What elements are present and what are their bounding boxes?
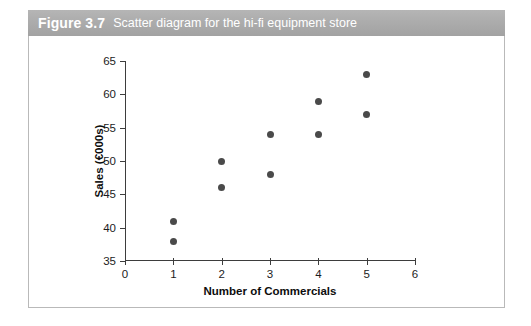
y-axis-title: Sales (€000s) [93, 125, 105, 198]
x-tick-label: 2 [218, 268, 224, 280]
x-tick-mark [415, 258, 416, 265]
data-point [363, 71, 370, 78]
x-tick-mark [173, 258, 174, 265]
x-tick-label: 4 [315, 268, 321, 280]
y-tick-mark [120, 128, 126, 129]
y-tick-label: 60 [103, 88, 116, 100]
y-tick-label: 35 [103, 255, 116, 267]
figure-caption-bar: Figure 3.7 Scatter diagram for the hi-fi… [28, 10, 505, 36]
plot-container: 35404550556065 0123456 Number of Commerc… [28, 36, 505, 308]
x-tick-label: 0 [122, 268, 128, 280]
y-tick-mark [120, 94, 126, 95]
data-point [170, 218, 177, 225]
y-tick-mark [120, 61, 126, 62]
y-tick-mark [120, 228, 126, 229]
x-tick-label: 3 [267, 268, 273, 280]
x-tick-label: 5 [363, 268, 369, 280]
x-tick-label: 1 [170, 268, 176, 280]
data-point [218, 184, 225, 191]
data-point [170, 238, 177, 245]
x-tick-mark [318, 258, 319, 265]
y-tick-mark [120, 194, 126, 195]
data-point [267, 131, 274, 138]
x-tick-mark [125, 258, 126, 265]
data-point [267, 171, 274, 178]
y-tick-mark [120, 161, 126, 162]
figure-number-label: Figure 3.7 [38, 15, 105, 31]
data-point [315, 98, 322, 105]
x-tick-mark [222, 258, 223, 265]
data-point [315, 131, 322, 138]
figure-caption-text: Scatter diagram for the hi-fi equipment … [113, 16, 357, 30]
data-point [218, 158, 225, 165]
data-point [363, 111, 370, 118]
x-tick-mark [270, 258, 271, 265]
y-tick-label: 65 [103, 55, 116, 67]
y-tick-label: 40 [103, 222, 116, 234]
figure-root: Figure 3.7 Scatter diagram for the hi-fi… [0, 0, 531, 326]
scatter-plot-area: 35404550556065 0123456 Number of Commerc… [125, 61, 415, 261]
x-tick-mark [367, 258, 368, 265]
x-tick-label: 6 [412, 268, 418, 280]
x-axis-title: Number of Commercials [125, 285, 415, 297]
